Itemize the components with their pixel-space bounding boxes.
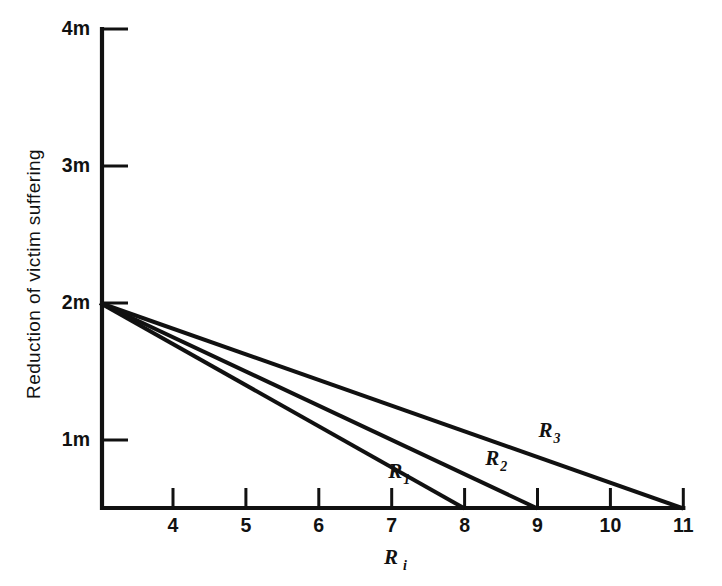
y-axis-tick-label: 3m [62, 154, 90, 176]
series-label-subscript-2: 2 [499, 459, 507, 474]
chart-axes [102, 29, 683, 508]
y-axis-tick-label: 4m [62, 17, 90, 39]
x-axis-tick-label: 4 [168, 514, 179, 536]
chart-figure: 1m2m3m4m4567891011R1R2R3 Reduction of vi… [0, 0, 722, 586]
x-axis-tick-label: 9 [532, 514, 543, 536]
series-line-2 [100, 303, 537, 509]
x-axis-tick-label: 11 [673, 514, 694, 536]
series-label-subscript-1: 1 [403, 472, 410, 487]
x-axis-tick-label: 7 [386, 514, 397, 536]
x-axis-tick-label: 10 [600, 514, 622, 536]
y-axis-tick-label: 2m [62, 291, 90, 313]
x-axis-title-subscript: i [403, 558, 407, 573]
x-axis-tick-label: 6 [313, 514, 324, 536]
series-label-2: R [484, 446, 499, 470]
series-label-subscript-3: 3 [553, 431, 561, 446]
series-label-3: R [538, 418, 553, 442]
x-axis-title: R i [383, 545, 407, 573]
y-axis-tick-label: 1m [62, 428, 90, 450]
series-label-1: R [387, 459, 402, 483]
x-axis-tick-label: 5 [240, 514, 251, 536]
chart-plot-area: 1m2m3m4m4567891011R1R2R3 [62, 17, 694, 536]
y-axis-title: Reduction of victim suffering [23, 149, 44, 399]
chart-canvas: 1m2m3m4m4567891011R1R2R3 Reduction of vi… [0, 0, 722, 586]
x-axis-tick-label: 8 [459, 514, 470, 536]
x-axis-title-base: R [383, 545, 398, 569]
